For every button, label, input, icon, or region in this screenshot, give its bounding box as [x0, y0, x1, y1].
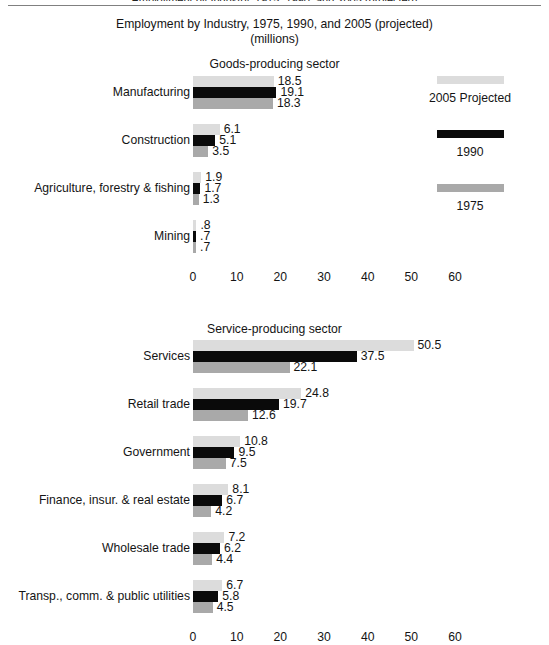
bar-group-wholesale-trade: Wholesale trade7.26.24.4	[0, 532, 549, 565]
x-axis-tick-20: 20	[274, 630, 288, 644]
value-label: 12.6	[248, 408, 276, 422]
value-label: 4.4	[212, 552, 233, 566]
title-line-1: Employment by Industry, 1975, 1990, and …	[116, 17, 433, 31]
chart-legend: 2005 Projected19901975	[0, 74, 549, 224]
x-axis-tick-60: 60	[448, 630, 462, 644]
x-axis-tick-40: 40	[361, 630, 375, 644]
x-axis-tick-30: 30	[317, 630, 331, 644]
bar-group-transp-comm-public-utilities: Transp., comm. & public utilities6.75.84…	[0, 580, 549, 613]
x-axis-tick-40: 40	[361, 270, 375, 284]
value-label: 4.5	[213, 600, 234, 614]
x-axis: 0102030405060	[0, 270, 549, 286]
legend-item-1975[interactable]: 1975	[405, 184, 535, 214]
value-label: .7	[196, 240, 210, 254]
bar-group-finance-insur-real-estate: Finance, insur. & real estate8.16.74.2	[0, 484, 549, 517]
x-axis-tick-10: 10	[230, 270, 244, 284]
x-axis-tick-20: 20	[274, 270, 288, 284]
x-axis-tick-60: 60	[448, 270, 462, 284]
x-axis: 0102030405060	[0, 630, 549, 645]
legend-item-2005-projected[interactable]: 2005 Projected	[405, 76, 535, 106]
bar-government-2005-projected	[193, 436, 240, 447]
value-label: 19.7	[279, 397, 307, 411]
value-label: 37.5	[357, 349, 385, 363]
bar-finance-insur-real-estate-1975	[193, 506, 211, 517]
x-axis-tick-50: 50	[405, 630, 419, 644]
legend-label: 2005 Projected	[429, 91, 511, 105]
value-label: 22.1	[290, 360, 318, 374]
legend-swatch-icon-1990	[437, 130, 504, 138]
category-label-mining: Mining	[154, 229, 190, 243]
bar-transp-comm-public-utilities-1975	[193, 602, 213, 613]
page-title: Employment by Industry, 1975, 1990, and …	[0, 17, 549, 47]
bar-government-1975	[193, 458, 226, 469]
value-label: 7.5	[226, 456, 247, 470]
legend-swatch-icon-1975	[437, 184, 504, 192]
category-label-wholesale-trade: Wholesale trade	[102, 541, 190, 555]
x-axis-tick-0: 0	[190, 270, 197, 284]
category-label-finance-insur-real-estate: Finance, insur. & real estate	[39, 493, 190, 507]
value-label: 50.5	[414, 338, 442, 352]
x-axis-tick-0: 0	[190, 630, 197, 644]
bar-retail-trade-1975	[193, 410, 248, 421]
header-divider	[8, 5, 541, 6]
bar-wholesale-trade-1975	[193, 554, 212, 565]
title-line-2: (millions)	[0, 32, 549, 47]
legend-label: 1990	[456, 145, 483, 159]
legend-item-1990[interactable]: 1990	[405, 130, 535, 160]
section-title-service: Service-producing sector	[0, 322, 549, 336]
bar-group-mining: Mining.8.7.7	[0, 220, 549, 253]
value-label: 4.2	[211, 504, 232, 518]
bar-services-1975	[193, 362, 290, 373]
legend-label: 1975	[456, 199, 483, 213]
category-label-retail-trade: Retail trade	[128, 397, 190, 411]
bar-group-services: Services50.537.522.1	[0, 340, 549, 373]
x-axis-tick-30: 30	[317, 270, 331, 284]
bar-services-1990	[193, 351, 357, 362]
bar-group-government: Government10.89.57.5	[0, 436, 549, 469]
category-label-services: Services	[143, 349, 190, 363]
category-label-government: Government	[123, 445, 190, 459]
bar-group-retail-trade: Retail trade24.819.712.6	[0, 388, 549, 421]
clipped-header-text: Employment by Industry, 1975, 1990, and …	[0, 0, 549, 1]
x-axis-tick-10: 10	[230, 630, 244, 644]
category-label-transp-comm-public-utilities: Transp., comm. & public utilities	[18, 589, 190, 603]
x-axis-tick-50: 50	[405, 270, 419, 284]
panel-service-producing: Services50.537.522.1Retail trade24.819.7…	[0, 338, 549, 610]
section-title-goods: Goods-producing sector	[0, 57, 549, 71]
legend-swatch-icon-2005-projected	[437, 76, 504, 84]
